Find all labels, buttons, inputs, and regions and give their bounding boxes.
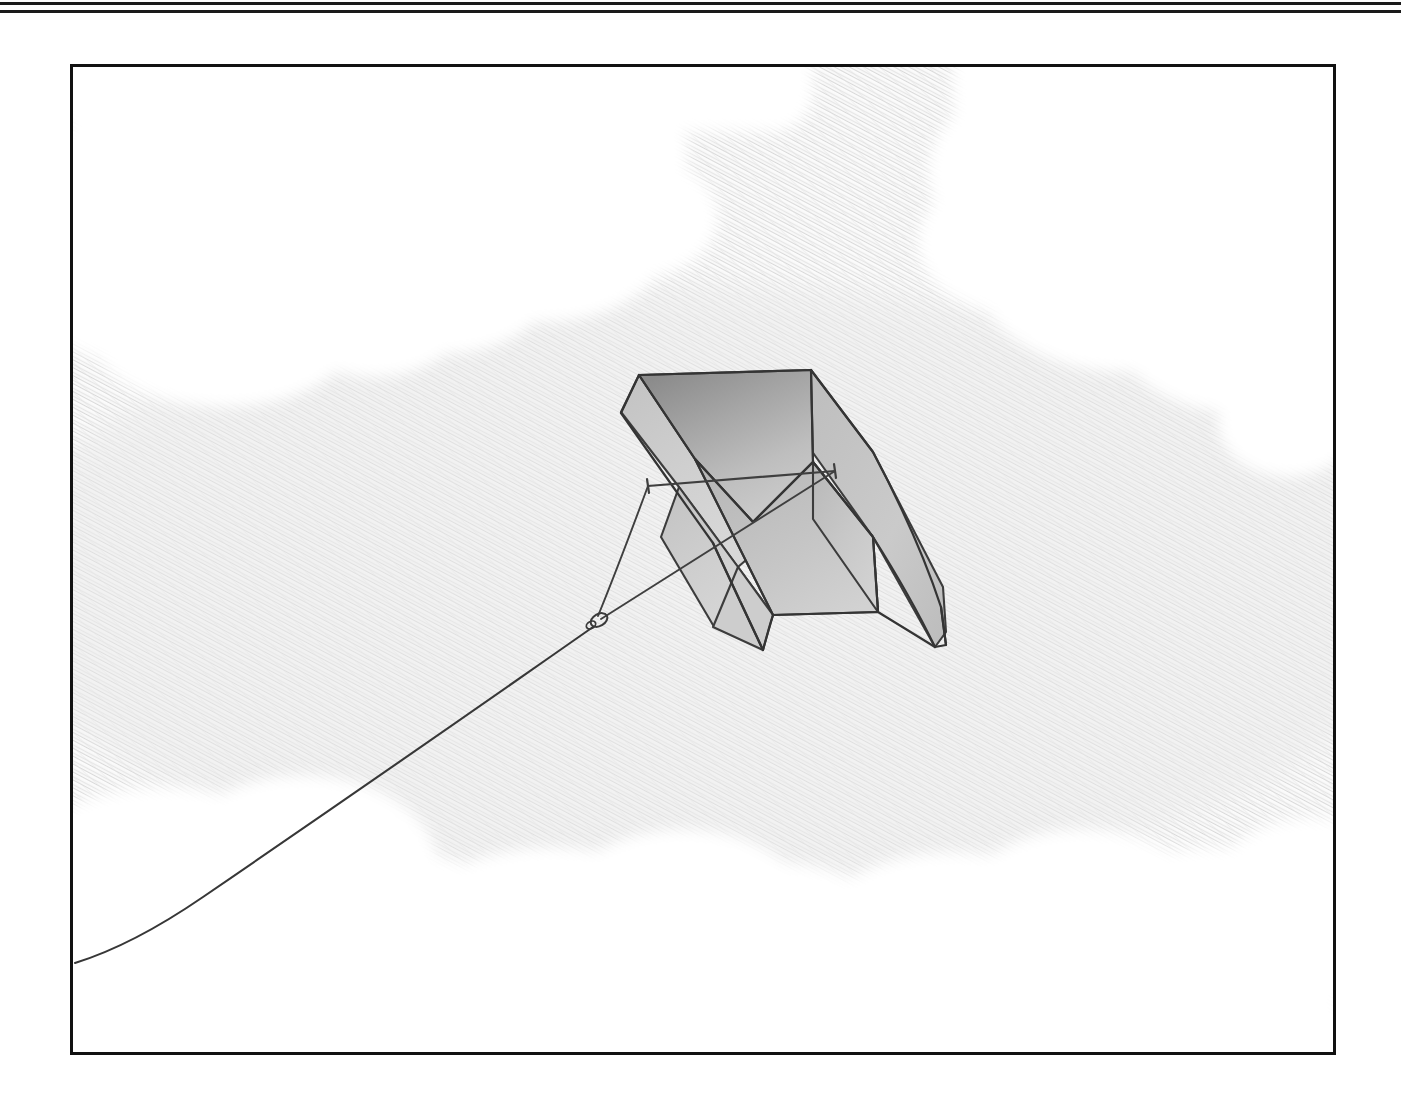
top-double-rule [0, 0, 1401, 26]
page-root: kite flying on a string graphite pencil … [0, 0, 1401, 1116]
cloud-top-right-band [953, 67, 1333, 142]
rule-line-upper [0, 2, 1401, 5]
rule-line-lower [0, 10, 1401, 13]
cloud-top-band [73, 67, 813, 132]
kite-illustration [73, 67, 1333, 1052]
cloud-bottom-band [73, 997, 1333, 1052]
illustration-frame [70, 64, 1336, 1055]
